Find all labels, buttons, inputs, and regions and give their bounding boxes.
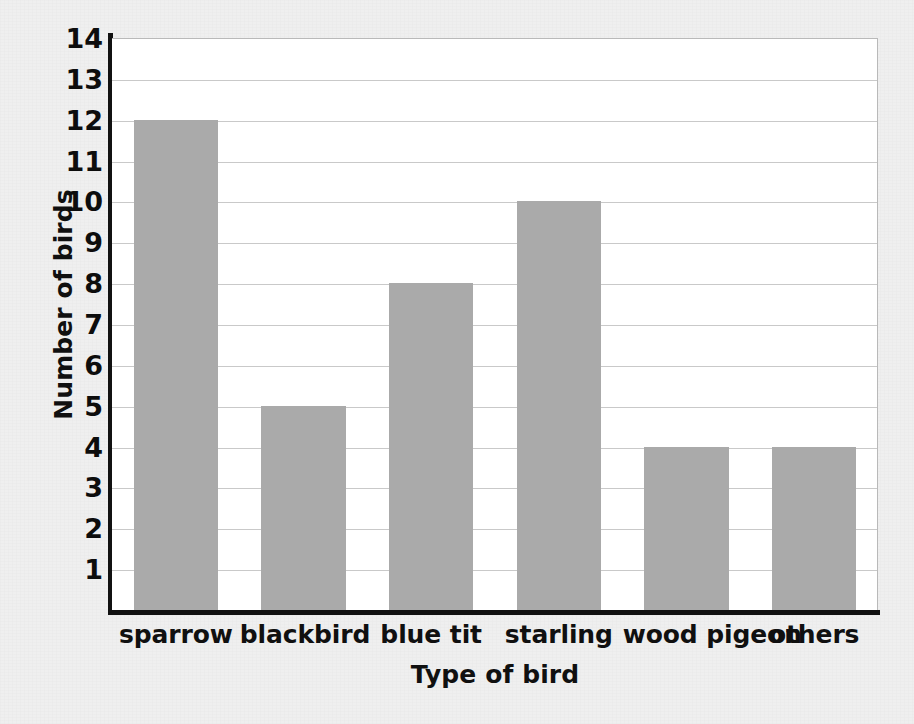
bar-chart-figure: Number of birds 1413121110987654321 spar… xyxy=(0,0,914,724)
gridline xyxy=(112,202,877,203)
gridline xyxy=(112,121,877,122)
bar xyxy=(772,447,856,610)
x-axis-line xyxy=(108,610,880,615)
y-tick-label: 1 xyxy=(0,556,112,583)
gridline xyxy=(112,529,877,530)
bar xyxy=(261,406,345,610)
y-tick-label: 4 xyxy=(0,433,112,460)
y-tick-label: 5 xyxy=(0,392,112,419)
y-tick-label: 14 xyxy=(0,25,112,52)
x-tick-label: blackbird xyxy=(240,620,368,649)
gridline xyxy=(112,325,877,326)
gridline xyxy=(112,162,877,163)
gridline xyxy=(112,80,877,81)
gridline xyxy=(112,407,877,408)
bar xyxy=(644,447,728,610)
x-axis-title: Type of bird xyxy=(112,660,878,689)
gridline xyxy=(112,570,877,571)
y-tick-label: 3 xyxy=(0,474,112,501)
y-tick-label: 11 xyxy=(0,147,112,174)
y-axis-tick-labels: 1413121110987654321 xyxy=(0,0,112,724)
bar xyxy=(134,120,218,610)
bar xyxy=(517,201,601,610)
y-tick-label: 8 xyxy=(0,270,112,297)
y-tick-label: 2 xyxy=(0,515,112,542)
x-tick-label: sparrow xyxy=(112,620,240,649)
bar xyxy=(389,283,473,610)
y-tick-label: 6 xyxy=(0,351,112,378)
gridline xyxy=(112,366,877,367)
x-tick-label: wood pigeon xyxy=(623,620,751,649)
x-tick-label: starling xyxy=(495,620,623,649)
y-tick-label: 13 xyxy=(0,65,112,92)
gridline xyxy=(112,448,877,449)
gridline xyxy=(112,488,877,489)
y-tick-label: 7 xyxy=(0,311,112,338)
y-tick-label: 10 xyxy=(0,188,112,215)
gridline xyxy=(112,284,877,285)
gridline xyxy=(112,243,877,244)
y-tick-label: 12 xyxy=(0,106,112,133)
x-tick-label: blue tit xyxy=(367,620,495,649)
y-tick-label: 9 xyxy=(0,229,112,256)
x-tick-label: others xyxy=(750,620,878,649)
plot-area xyxy=(112,38,878,610)
